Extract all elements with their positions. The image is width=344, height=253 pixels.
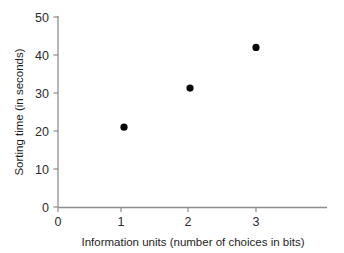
data-point (252, 44, 259, 51)
plot-canvas: 50 40 30 20 10 0 0 1 2 3 Sorting time (i… (0, 0, 344, 253)
y-tick-label-0: 0 (42, 201, 49, 215)
y-tick-label-40: 40 (35, 49, 49, 63)
x-tick-label-2: 2 (185, 215, 192, 229)
x-tick-label-0: 0 (55, 215, 62, 229)
y-tick-label-30: 30 (35, 87, 49, 101)
y-tick-label-50: 50 (35, 11, 49, 25)
data-point (186, 84, 193, 91)
y-tick-label-20: 20 (35, 125, 49, 139)
y-tick-label-10: 10 (35, 163, 49, 177)
data-point (120, 124, 127, 131)
x-tick-label-1: 1 (118, 215, 125, 229)
y-axis-title: Sorting time (in seconds) (13, 48, 25, 175)
x-tick-label-3: 3 (253, 215, 260, 229)
scatter-plot-figure: 50 40 30 20 10 0 0 1 2 3 Sorting time (i… (0, 0, 344, 253)
x-axis-title: Information units (number of choices in … (81, 236, 304, 248)
